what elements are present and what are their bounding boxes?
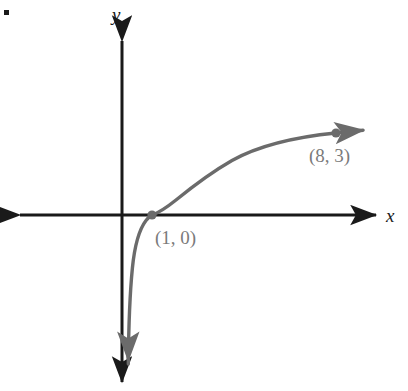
problem-bullet-mark xyxy=(4,10,9,15)
point-label-x-intercept: (1, 0) xyxy=(155,228,196,247)
y-axis-label: y xyxy=(112,5,120,24)
point-marker-8-3 xyxy=(331,128,340,137)
graph-figure xyxy=(0,0,408,391)
x-axis-label: x xyxy=(386,206,394,225)
point-label-on-curve: (8, 3) xyxy=(309,146,350,165)
point-marker-1-0 xyxy=(147,210,156,219)
